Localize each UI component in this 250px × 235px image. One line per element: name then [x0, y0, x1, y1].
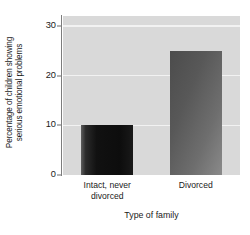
y-axis-tick-label-group: 0102030: [34, 14, 56, 182]
y-axis-tick-mark: [57, 175, 61, 176]
y-axis-tick-mark: [57, 25, 61, 26]
y-axis-tick-label: 10: [46, 121, 56, 130]
bar: [81, 125, 133, 175]
y-axis-tick-label: 30: [46, 21, 56, 30]
plot-area: [63, 16, 240, 175]
x-axis-tick-label-group: Intact, never divorcedDivorced: [63, 180, 240, 206]
x-axis-title: Type of family: [63, 210, 240, 220]
y-axis-tick-mark: [57, 125, 61, 126]
y-axis-tick-mark: [57, 75, 61, 76]
y-axis-tick-label: 0: [51, 170, 56, 179]
bar: [170, 51, 222, 175]
x-axis-tick-label: Divorced: [152, 180, 241, 191]
y-axis-tick-label: 20: [46, 71, 56, 80]
y-axis-title: Percentage of children showing serious e…: [0, 0, 30, 185]
gridline: [63, 25, 240, 27]
x-axis-tick-label: Intact, never divorced: [63, 180, 152, 201]
bar-chart-figure: Percentage of children showing serious e…: [0, 0, 250, 235]
